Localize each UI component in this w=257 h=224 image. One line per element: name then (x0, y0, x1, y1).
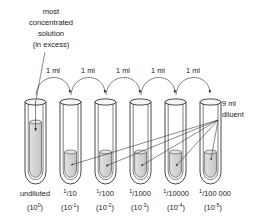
transfer-label-3: 1 ml (116, 66, 130, 75)
diluent-leader-2 (106, 120, 218, 166)
tube-dilution-2 (95, 99, 116, 184)
tube-exponent-close-3: ) (146, 203, 148, 212)
transfer-label-4: 1 ml (151, 66, 165, 75)
transfer-label-5: 1 ml (186, 66, 200, 75)
tube-dilution-4-rim (165, 99, 186, 105)
tube-exponent-close-0: ) (41, 203, 43, 212)
transfer-arc-2 (71, 77, 105, 95)
tube-frac-den-4: 10000 (168, 189, 189, 198)
tube-dilution-4-liquid-surface (170, 150, 182, 154)
tube-labels: undiluted (100) 1/10 (10-1) 1/100 (10-2)… (20, 188, 231, 212)
tube-dilution-2-rim (95, 99, 116, 105)
tube-exponent-dilution-5: (10-5) (204, 202, 222, 212)
source-caption-line-1: most (43, 7, 60, 16)
transfer-arc-4 (141, 77, 175, 95)
tube-dilution-1-liquid (65, 152, 77, 177)
tube-dilution-3-liquid (135, 152, 147, 177)
serial-dilution-diagram: most concentrated solution (in excess) 1… (0, 0, 257, 224)
tube-exponent-close-4: ) (182, 203, 184, 212)
tube-dilution-5-liquid (205, 152, 217, 177)
transfer-label-2: 1 ml (81, 66, 95, 75)
tube-exponent-dilution-1: (10-1) (61, 202, 79, 212)
tube-exponent-close-2: ) (111, 203, 113, 212)
tube-dilution-5-liquid-surface (205, 150, 217, 154)
tube-dilution-1-rim (60, 99, 81, 105)
transfer-arc-3 (106, 77, 140, 95)
tube-frac-den-2: 100 (101, 189, 113, 198)
tube-exponent-dilution-3: (10-3) (131, 202, 149, 212)
tube-exponent-close-1: ) (76, 203, 78, 212)
tube-exponent-dilution-4: (10-4) (167, 202, 185, 212)
transfer-arcs: 1 ml 1 ml 1 ml 1 ml 1 ml (36, 66, 210, 95)
source-caption-line-3: solution (38, 29, 64, 38)
tube-dilution-5 (200, 99, 221, 184)
tube-exponent-base-0: (10 (27, 203, 38, 212)
tube-dilution-5-rim (200, 99, 221, 105)
tube-dilution-1 (60, 99, 81, 184)
transfer-arc-5 (176, 77, 210, 95)
source-caption-line-2: concentrated (29, 18, 73, 27)
tube-undiluted (25, 99, 46, 184)
tube-dilution-4-liquid (170, 152, 182, 177)
tube-label-dilution-2: 1/100 (96, 188, 114, 198)
source-caption-leader-line (36, 52, 45, 100)
tube-exponent-close-5: ) (219, 203, 221, 212)
tube-exponent-base-5: (10 (204, 203, 215, 212)
tube-exponent-undiluted: (100) (27, 202, 43, 212)
transfer-arc-1 (36, 77, 70, 95)
tube-label-dilution-3: 1/1000 (129, 188, 151, 198)
tube-frac-den-5: 100 000 (204, 189, 231, 198)
tube-exponent-base-1: (10 (61, 203, 72, 212)
tube-dilution-1-liquid-surface (65, 150, 77, 154)
tube-label-dilution-1: 1/10 (63, 188, 76, 198)
tube-label-dilution-5: 1/100 000 (199, 188, 231, 198)
tube-dilution-3-rim (130, 99, 151, 105)
tube-label-dilution-4: 1/10000 (163, 188, 189, 198)
tube-label-undiluted: undiluted (20, 189, 50, 198)
transfer-label-1: 1 ml (46, 66, 60, 75)
tube-exponent-base-3: (10 (131, 203, 142, 212)
tube-exponent-dilution-2: (10-2) (96, 202, 114, 212)
diluent-label-line-1: 9 ml (222, 99, 236, 108)
tube-dilution-4 (165, 99, 186, 184)
tube-exponent-base-4: (10 (167, 203, 178, 212)
tube-frac-den-1: 10 (68, 189, 76, 198)
diluent-label-line-2: diluent (222, 110, 244, 119)
tube-frac-den-3: 1000 (134, 189, 150, 198)
source-caption-line-4: (in excess) (33, 40, 70, 49)
source-caption: most concentrated solution (in excess) (29, 7, 73, 100)
tube-exponent-base-2: (10 (96, 203, 107, 212)
